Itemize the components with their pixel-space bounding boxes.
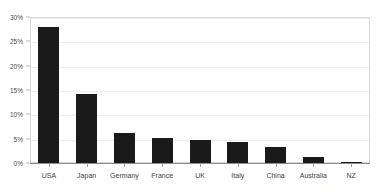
x-tick-label: UK — [195, 172, 205, 179]
y-tick-label: 20% — [10, 62, 23, 69]
bar — [114, 133, 135, 163]
y-tick-label: 30% — [10, 14, 23, 21]
x-axis: USAJapanGermanyFranceUKItalyChinaAustral… — [30, 163, 370, 195]
x-tick-mark — [313, 163, 314, 167]
bar — [265, 147, 286, 163]
x-tick-mark — [238, 163, 239, 167]
x-tick-label: France — [151, 172, 173, 179]
x-tick-label: Japan — [77, 172, 96, 179]
x-tick-label: Australia — [300, 172, 327, 179]
x-tick-mark — [162, 163, 163, 167]
bar — [227, 142, 248, 163]
bar — [190, 140, 211, 163]
x-tick-label: China — [266, 172, 284, 179]
bar — [152, 138, 173, 163]
x-tick-mark — [276, 163, 277, 167]
y-tick-label: 15% — [10, 87, 23, 94]
x-tick-mark — [49, 163, 50, 167]
y-tick-label: 0% — [14, 160, 23, 167]
x-tick-mark — [351, 163, 352, 167]
x-tick-label: Italy — [231, 172, 244, 179]
bar-series — [30, 17, 370, 163]
x-tick-label: Germany — [110, 172, 139, 179]
bar — [38, 27, 59, 163]
x-tick-label: USA — [42, 172, 56, 179]
y-tick-label: 5% — [14, 135, 23, 142]
x-tick-label: NZ — [346, 172, 355, 179]
x-tick-mark — [124, 163, 125, 167]
y-tick-label: 10% — [10, 111, 23, 118]
bar-chart: 0%5%10%15%20%25%30% USAJapanGermanyFranc… — [0, 0, 382, 195]
bar — [76, 94, 97, 163]
y-tick-label: 25% — [10, 38, 23, 45]
x-tick-mark — [87, 163, 88, 167]
x-tick-mark — [200, 163, 201, 167]
y-axis: 0%5%10%15%20%25%30% — [0, 17, 30, 163]
